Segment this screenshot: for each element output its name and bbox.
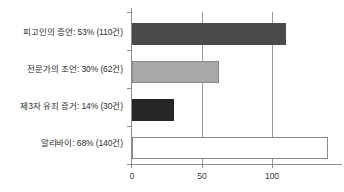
y-tick-3 [127,126,132,127]
category-axis-labels: 피고인의 증언: 53% (110건) 전문가의 조언: 30% (62건) 제… [0,0,128,192]
category-label-2: 제3자 유죄 증거: 14% (30건) [0,101,123,111]
x-tick-label-0: 0 [130,171,135,181]
x-tick-0 [131,164,132,168]
bar-2 [132,99,174,121]
bar-chart: 피고인의 증언: 53% (110건) 전문가의 조언: 30% (62건) 제… [0,0,344,192]
plot-area: 0 50 100 [132,12,342,164]
category-label-3: 알리바이: 68% (140건) [0,138,123,148]
bar-3 [132,137,328,159]
x-tick-50 [202,164,203,168]
category-label-0: 피고인의 증언: 53% (110건) [0,27,123,37]
x-tick-100 [272,164,273,168]
bottom-axis-line [131,164,342,165]
x-tick-label-50: 50 [197,171,206,181]
bar-0 [132,23,286,45]
y-tick-2 [127,88,132,89]
y-tick-0 [127,12,132,13]
bar-1 [132,61,219,83]
x-tick-label-100: 100 [265,171,279,181]
category-label-1: 전문가의 조언: 30% (62건) [0,64,123,74]
y-tick-1 [127,50,132,51]
